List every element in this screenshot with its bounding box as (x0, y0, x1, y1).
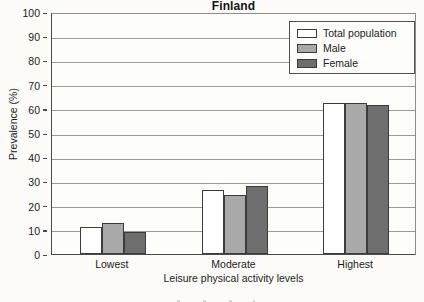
y-axis-label: Prevalence (%) (7, 44, 19, 204)
legend-label: Female (323, 58, 358, 69)
legend-label: Male (323, 43, 346, 54)
y-tick-label: 10 (28, 226, 40, 236)
bar-moderate-male (224, 195, 246, 254)
x-tick-label-moderate: Moderate (211, 258, 255, 270)
bar-highest-female (367, 105, 389, 254)
y-tick-mark (43, 182, 47, 183)
y-tick-label: 0 (34, 250, 40, 260)
x-tick-label-lowest: Lowest (95, 258, 128, 270)
y-tick-label: 20 (28, 202, 40, 212)
bar-moderate-total-population (202, 190, 224, 254)
y-tick-label: 80 (28, 56, 40, 66)
legend-swatch-female (297, 59, 317, 68)
y-tick-mark (43, 85, 47, 86)
legend-entry-total: Total population (297, 26, 414, 41)
legend-label: Total population (323, 28, 397, 39)
y-tick-mark (43, 13, 47, 14)
y-tick-mark (43, 206, 47, 207)
bar-moderate-female (246, 186, 268, 254)
y-tick-mark (43, 255, 47, 256)
y-tick-mark (43, 61, 47, 62)
y-tick-label: 50 (28, 129, 40, 139)
bar-highest-male (345, 103, 367, 254)
x-tick-label-highest: Highest (337, 258, 373, 270)
bar-lowest-total-population (80, 227, 102, 254)
y-tick-mark (43, 37, 47, 38)
bar-lowest-male (102, 223, 124, 254)
chart-title: Finland (51, 0, 416, 13)
scan-artifact (150, 296, 280, 302)
legend-swatch-male (297, 44, 317, 53)
chart-legend: Total populationMaleFemale (289, 21, 415, 74)
y-tick-label: 100 (22, 8, 40, 18)
legend-entry-female: Female (297, 56, 414, 71)
y-tick-mark (43, 230, 47, 231)
x-axis-label: Leisure physical activity levels (51, 272, 416, 284)
y-tick-mark (43, 134, 47, 135)
y-tick-label: 70 (28, 81, 40, 91)
bar-chart-figure: Finland 0102030405060708090100 Prevalenc… (0, 0, 424, 302)
y-tick-mark (43, 158, 47, 159)
bar-lowest-female (124, 232, 146, 254)
bar-highest-total-population (323, 103, 345, 254)
x-axis-tick-labels: LowestModerateHighest (51, 258, 416, 272)
y-tick-label: 60 (28, 105, 40, 115)
legend-swatch-total (297, 29, 317, 38)
y-tick-label: 90 (28, 32, 40, 42)
y-tick-label: 40 (28, 153, 40, 163)
y-tick-label: 30 (28, 177, 40, 187)
y-tick-mark (43, 109, 47, 110)
legend-entry-male: Male (297, 41, 414, 56)
